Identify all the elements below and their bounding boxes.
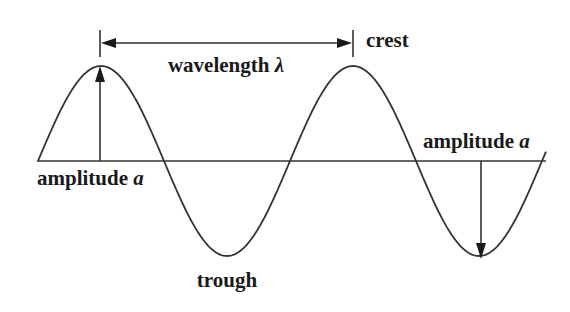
arrowhead-up-icon	[95, 66, 105, 82]
amplitude-label-left: amplitude a	[37, 166, 144, 190]
amplitude-label-right: amplitude a	[423, 129, 530, 153]
wave-diagram: wavelength λ crest amplitude a amplitude…	[0, 0, 570, 312]
trough-label: trough	[197, 268, 258, 292]
amplitude-arrow-right	[476, 161, 486, 259]
arrowhead-right-icon	[337, 38, 352, 48]
arrowhead-left-icon	[101, 38, 116, 48]
amplitude-arrow-left	[95, 66, 105, 161]
crest-label: crest	[366, 28, 409, 52]
wavelength-label: wavelength λ	[168, 53, 284, 77]
